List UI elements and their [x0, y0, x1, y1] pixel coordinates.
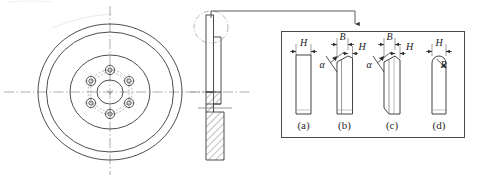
center-lines [4, 6, 216, 175]
profile-c-body [384, 56, 400, 114]
dim-label-H-c: H [405, 41, 414, 52]
detail-leader-line [211, 11, 355, 24]
dim-label-B-b: B [339, 31, 345, 42]
radius-label-R-d: R [439, 59, 446, 70]
disc-rim-wall [206, 15, 214, 92]
front-view-brake-disc [4, 6, 216, 175]
caption-a: (a) [297, 119, 310, 132]
scan-artifact [8, 1, 112, 28]
dim-label-B-c: B [386, 31, 392, 42]
profile-c-double-bevel-groove: B H α (c) [366, 31, 414, 132]
caption-d: (d) [433, 119, 446, 132]
dim-label-H-b: H [357, 41, 366, 52]
caption-c: (c) [386, 119, 399, 132]
profile-b-single-bevel-groove: B H α (b) [319, 31, 366, 132]
angle-label-alpha-c: α [366, 59, 372, 70]
dim-label-H-a: H [299, 37, 308, 48]
angle-label-alpha-b: α [319, 59, 325, 70]
profile-d-round-bottom-groove: H R (d) [426, 37, 452, 132]
dim-label-H-d: H [434, 37, 443, 48]
engineering-drawing-canvas: H (a) B [0, 0, 477, 178]
profile-a-rectangular-flat-groove: H (a) [290, 37, 317, 132]
hub-section-outline [206, 92, 224, 160]
profile-a-body [296, 55, 311, 114]
detail-box-groove-profiles: H (a) B [282, 31, 465, 138]
disc-rim-outer-step [214, 37, 222, 92]
drawing-sheet: H (a) B [0, 0, 477, 178]
profile-b-body [337, 56, 353, 114]
caption-b: (b) [338, 119, 351, 132]
